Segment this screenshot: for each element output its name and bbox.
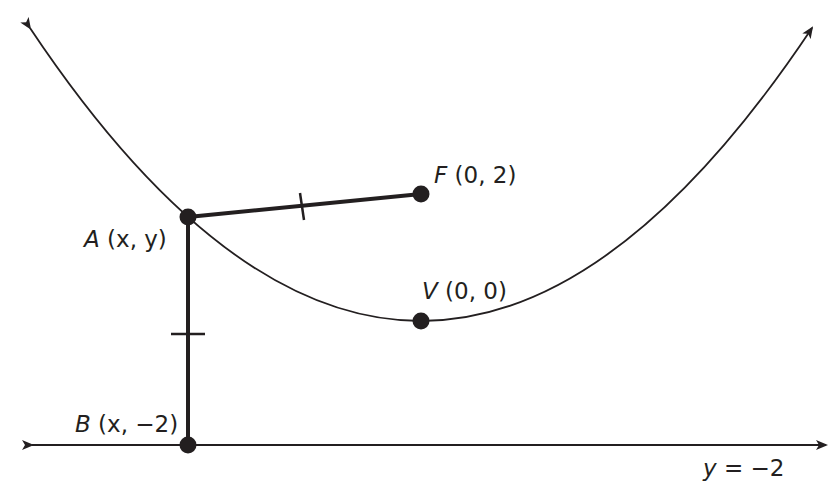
label-v: V (0, 0) (422, 278, 507, 304)
point-b (180, 437, 197, 454)
segment-af (188, 194, 421, 217)
point-f (413, 186, 430, 203)
parabola-curve (30, 28, 812, 321)
label-f: F (0, 2) (434, 162, 516, 188)
label-b: B (x, −2) (75, 411, 178, 437)
point-a (180, 209, 197, 226)
label-a: A (x, y) (82, 226, 167, 252)
point-v (413, 313, 430, 330)
parabola-diagram: A (x, y) F (0, 2) V (0, 0) B (x, −2) y =… (0, 0, 835, 483)
label-directrix: y = −2 (702, 455, 784, 481)
